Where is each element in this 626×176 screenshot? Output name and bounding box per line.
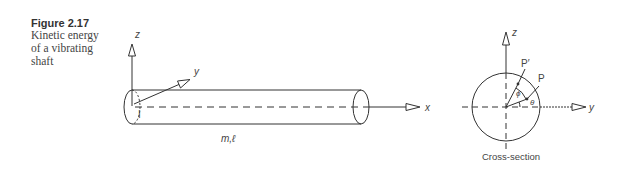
mass-length-label: m,ℓ — [221, 133, 236, 144]
shaft-z-label: z — [134, 29, 140, 40]
point-p-prime-marker — [517, 83, 520, 86]
shaft-view — [124, 44, 420, 124]
cross-section-view — [462, 32, 586, 150]
cs-y-axis-arrowhead — [572, 104, 586, 111]
point-p-marker — [526, 98, 529, 101]
theta-angle-arc — [519, 102, 520, 107]
cs-z-label: z — [511, 27, 517, 38]
cross-section-caption: Cross-section — [482, 151, 540, 162]
y-axis-arrowhead — [178, 80, 191, 89]
p-label: P — [538, 73, 545, 84]
theta-label: θ — [530, 98, 535, 107]
p-prime-label: P′ — [521, 58, 530, 69]
x-axis-arrowhead — [406, 104, 420, 111]
shaft-left-end-front — [124, 90, 132, 124]
p-prime-leader — [518, 69, 525, 84]
cs-z-axis-arrowhead — [503, 32, 510, 45]
diagram-canvas: z y x I m,ℓ z y P′ P ϕ θ Cross-section — [0, 0, 626, 176]
phi-label: ϕ — [516, 89, 521, 98]
z-axis-arrowhead — [129, 44, 136, 56]
shaft-x-label: x — [424, 102, 431, 113]
shaft-origin-label: I — [138, 109, 141, 120]
cs-y-label: y — [588, 102, 595, 113]
shaft-y-label: y — [193, 66, 200, 77]
y-axis-line — [134, 84, 180, 104]
